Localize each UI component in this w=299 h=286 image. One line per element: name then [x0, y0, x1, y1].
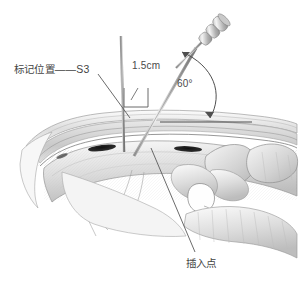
sacral-needle-placement-figure: 标记位置——S3 1.5cm 60° 插入点 — [0, 0, 299, 286]
reference-needle-icon — [121, 36, 124, 152]
label-entry-point: 插入点 — [186, 258, 217, 269]
leader-line-mark-position — [98, 74, 130, 118]
label-depth: 1.5cm — [132, 60, 160, 71]
leader-line-depth — [131, 88, 138, 100]
needle-icon — [176, 12, 232, 68]
label-mark-position: 标记位置——S3 — [14, 64, 89, 75]
label-angle: 60° — [177, 78, 193, 89]
anatomical-illustration — [0, 0, 299, 286]
